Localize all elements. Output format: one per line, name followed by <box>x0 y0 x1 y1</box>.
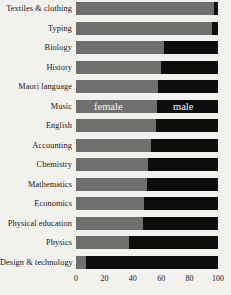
segment-male <box>151 139 218 152</box>
bar-row: Maori language <box>0 80 231 93</box>
category-label: Physical education <box>0 219 76 228</box>
x-tick-label: 100 <box>212 274 224 284</box>
segment-male <box>144 197 218 210</box>
segment-female <box>76 61 161 74</box>
segment-male <box>147 178 218 191</box>
segment-male <box>158 80 218 93</box>
bar-row: Mathematics <box>0 178 231 191</box>
x-tick-label: 40 <box>129 274 137 284</box>
segment-female <box>76 2 214 15</box>
segment-female <box>76 80 158 93</box>
category-label: Textiles & clothing <box>0 4 76 13</box>
segment-male <box>212 22 218 35</box>
segment-female <box>76 119 156 132</box>
category-label: Economics <box>0 199 76 208</box>
bar-row: Physical education <box>0 217 231 230</box>
bar-row: Physics <box>0 236 231 249</box>
bar-track <box>76 178 218 191</box>
segment-male <box>143 217 218 230</box>
bar-track <box>76 2 218 15</box>
category-label: Maori language <box>0 82 76 91</box>
category-label: Design & technology <box>0 258 76 267</box>
category-label: Biology <box>0 43 76 52</box>
category-label: Accounting <box>0 141 76 150</box>
bar-track <box>76 197 218 210</box>
bar-row: Textiles & clothing <box>0 2 231 15</box>
bar-row: Music female male <box>0 100 231 113</box>
stacked-bar-chart: Textiles & clothing Typing Biology Histo… <box>0 0 231 295</box>
bar-track <box>76 41 218 54</box>
segment-female <box>76 236 129 249</box>
x-tick-label: 80 <box>186 274 194 284</box>
x-axis: 0 20 40 60 80 100 <box>76 272 231 295</box>
bar-row: Biology <box>0 41 231 54</box>
segment-male <box>86 256 218 269</box>
bar-track <box>76 22 218 35</box>
segment-female <box>76 178 147 191</box>
segment-female <box>76 217 143 230</box>
category-label: History <box>0 63 76 72</box>
segment-female <box>76 158 148 171</box>
category-label: Chemistry <box>0 160 76 169</box>
bar-track <box>76 256 218 269</box>
segment-male <box>148 158 218 171</box>
category-label: Mathematics <box>0 180 76 189</box>
segment-male <box>161 61 218 74</box>
segment-male <box>214 2 218 15</box>
segment-male <box>129 236 218 249</box>
bar-row: English <box>0 119 231 132</box>
plot-area: Textiles & clothing Typing Biology Histo… <box>0 0 231 271</box>
segment-female <box>76 197 144 210</box>
segment-female <box>76 139 151 152</box>
category-label: Music <box>0 102 76 111</box>
category-label: Physics <box>0 238 76 247</box>
bar-track <box>76 139 218 152</box>
bar-track <box>76 61 218 74</box>
category-label: Typing <box>0 24 76 33</box>
bar-row: Typing <box>0 22 231 35</box>
segment-female <box>76 41 164 54</box>
bar-row: Accounting <box>0 139 231 152</box>
segment-female <box>76 256 86 269</box>
x-tick-label: 20 <box>100 274 108 284</box>
category-label: English <box>0 121 76 130</box>
bar-track <box>76 217 218 230</box>
bar-row: Chemistry <box>0 158 231 171</box>
bar-track <box>76 119 218 132</box>
bar-track <box>76 236 218 249</box>
x-tick-label: 60 <box>157 274 165 284</box>
bar-track <box>76 80 218 93</box>
bar-row: Economics <box>0 197 231 210</box>
bar-row: History <box>0 61 231 74</box>
bar-row: Design & technology <box>0 256 231 269</box>
bar-track <box>76 158 218 171</box>
bar-track: female male <box>76 100 218 113</box>
segment-male <box>164 41 218 54</box>
segment-female <box>76 22 212 35</box>
segment-male <box>156 119 218 132</box>
x-tick-label: 0 <box>74 274 78 284</box>
segment-female <box>76 100 157 113</box>
segment-male <box>157 100 218 113</box>
